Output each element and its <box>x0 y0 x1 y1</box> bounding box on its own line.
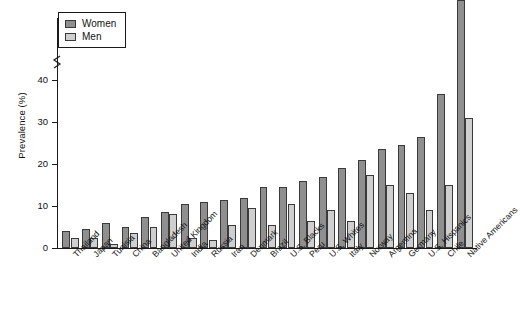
bar-group <box>100 18 120 248</box>
y-tick-10: 10 <box>52 206 57 207</box>
bar-group <box>61 18 81 248</box>
bar-men <box>366 175 374 249</box>
y-tick-label-20: 20 <box>37 158 48 169</box>
y-tick-30: 30 <box>52 122 57 123</box>
bar-group <box>278 18 298 248</box>
bar-group <box>436 18 456 248</box>
plot-area: 010203040 65.6 <box>57 18 477 248</box>
bar-group <box>337 18 357 248</box>
bar-group <box>140 18 160 248</box>
legend-label-women: Women <box>82 18 116 29</box>
y-tick-40: 40 <box>52 80 57 81</box>
y-tick-label-0: 0 <box>43 242 48 253</box>
y-axis-line <box>57 18 58 248</box>
bar-women <box>437 94 445 248</box>
y-tick-20: 20 <box>52 164 57 165</box>
bar-women <box>62 231 70 248</box>
legend-item-men: Men <box>65 30 116 43</box>
legend-item-women: Women <box>65 17 116 30</box>
bar-men <box>465 118 473 248</box>
bar-group <box>238 18 258 248</box>
bar-group <box>160 18 180 248</box>
bar-group <box>81 18 101 248</box>
bar-group <box>120 18 140 248</box>
bar-group <box>317 18 337 248</box>
bar-women <box>358 160 366 248</box>
bar-women: 65.6 <box>457 0 465 248</box>
bar-men <box>327 210 335 248</box>
y-tick-0: 0 <box>52 248 57 249</box>
men-swatch-icon <box>65 33 76 41</box>
bar-group <box>298 18 318 248</box>
bar-group <box>219 18 239 248</box>
bar-group <box>416 18 436 248</box>
y-tick-label-10: 10 <box>37 200 48 211</box>
y-tick-label-40: 40 <box>37 74 48 85</box>
bar-women <box>319 177 327 248</box>
bar-group <box>179 18 199 248</box>
bar-group <box>396 18 416 248</box>
women-swatch-icon <box>65 20 76 28</box>
legend-label-men: Men <box>82 31 101 42</box>
y-axis-title: Prevalence (%) <box>16 56 27 196</box>
bar-group <box>258 18 278 248</box>
chart-legend: Women Men <box>58 12 126 48</box>
bar-group <box>357 18 377 248</box>
bar-group <box>376 18 396 248</box>
y-tick-label-30: 30 <box>37 116 48 127</box>
bar-women <box>240 198 248 248</box>
bar-men <box>248 208 256 248</box>
